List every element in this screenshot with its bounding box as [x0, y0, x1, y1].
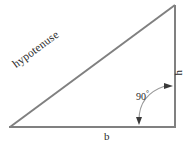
base-label: b [104, 131, 110, 142]
height-label: h [173, 70, 184, 76]
right-triangle-figure [0, 0, 195, 148]
right-angle-value: 90 [136, 91, 146, 102]
diagram-canvas: hypotenuse b h 90° [0, 0, 195, 148]
hypotenuse-line [10, 5, 175, 127]
arrow-down-icon [136, 117, 142, 125]
right-angle-label: 90° [136, 90, 149, 102]
degree-symbol: ° [146, 89, 149, 98]
arrow-right-icon [164, 83, 173, 89]
